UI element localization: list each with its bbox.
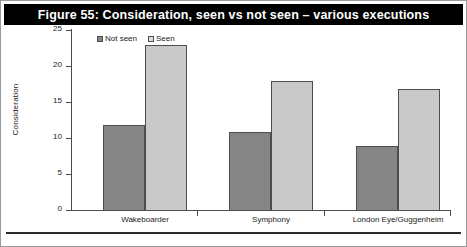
legend-item-not-seen: Not seen bbox=[97, 34, 137, 43]
y-axis-line bbox=[71, 29, 72, 211]
y-tick-20: 20 bbox=[66, 66, 71, 67]
x-tick-sep-2 bbox=[324, 211, 325, 216]
y-tick-0: 0 bbox=[66, 210, 71, 211]
legend-swatch-icon-seen bbox=[148, 36, 154, 42]
x-category-label-london-eye: London Eye/Guggenheim bbox=[353, 215, 444, 224]
bar-wakeboarder-seen bbox=[145, 45, 187, 211]
y-tick-10: 10 bbox=[66, 138, 71, 139]
figure-container: Figure 55: Consideration, seen vs not se… bbox=[0, 0, 467, 247]
page-title: Figure 55: Consideration, seen vs not se… bbox=[38, 8, 430, 22]
axes: 0 5 10 15 20 25 bbox=[71, 29, 451, 211]
legend: Not seen Seen bbox=[97, 34, 175, 43]
legend-label-not-seen: Not seen bbox=[105, 34, 137, 43]
bar-wakeboarder-not-seen bbox=[103, 125, 145, 211]
y-tick-15: 15 bbox=[66, 102, 71, 103]
x-tick-sep-3 bbox=[450, 211, 451, 216]
figure-title-bar: Figure 55: Consideration, seen vs not se… bbox=[4, 4, 463, 25]
y-tick-5: 5 bbox=[66, 174, 71, 175]
y-axis-title: Consideration bbox=[11, 70, 20, 150]
plot-area: Consideration 0 5 10 15 20 25 bbox=[1, 27, 467, 223]
y-tick-label-0: 0 bbox=[58, 204, 62, 213]
bar-london-eye-not-seen bbox=[356, 146, 398, 211]
footer-divider bbox=[6, 232, 461, 234]
bar-symphony-seen bbox=[271, 81, 313, 211]
y-tick-label-15: 15 bbox=[53, 96, 62, 105]
y-tick-label-5: 5 bbox=[58, 168, 62, 177]
bar-symphony-not-seen bbox=[229, 132, 271, 211]
legend-item-seen: Seen bbox=[148, 34, 175, 43]
x-category-label-wakeboarder: Wakeboarder bbox=[121, 215, 169, 224]
legend-swatch-icon-not-seen bbox=[97, 36, 103, 42]
legend-label-seen: Seen bbox=[156, 34, 175, 43]
y-tick-25: 25 bbox=[66, 30, 71, 31]
y-tick-label-25: 25 bbox=[53, 24, 62, 33]
x-tick-sep-1 bbox=[197, 211, 198, 216]
x-category-label-symphony: Symphony bbox=[252, 215, 290, 224]
y-tick-label-20: 20 bbox=[53, 60, 62, 69]
y-tick-label-10: 10 bbox=[53, 132, 62, 141]
bar-london-eye-seen bbox=[398, 89, 440, 211]
